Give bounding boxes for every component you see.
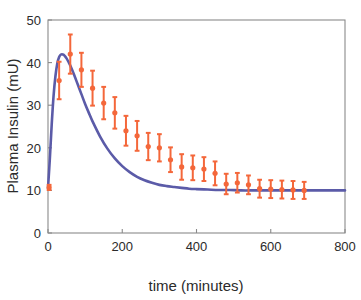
- data-marker: [190, 165, 195, 170]
- data-point-240: [135, 121, 140, 151]
- data-marker: [212, 171, 217, 176]
- x-tick-label-0: 0: [44, 239, 51, 254]
- data-marker: [101, 100, 106, 105]
- data-marker: [57, 78, 62, 83]
- data-point-660: [290, 181, 295, 199]
- data-point-360: [179, 154, 184, 180]
- data-marker: [257, 186, 262, 191]
- data-marker: [168, 157, 173, 162]
- data-point-390: [190, 155, 195, 180]
- data-marker: [224, 181, 229, 186]
- data-marker: [302, 188, 307, 193]
- x-tick-label-800: 800: [334, 239, 356, 254]
- data-point-210: [123, 116, 128, 146]
- y-tick-label-20: 20: [27, 141, 41, 156]
- data-point-600: [268, 180, 273, 198]
- data-marker: [146, 144, 151, 149]
- data-point-300: [157, 134, 162, 161]
- data-marker: [68, 51, 73, 56]
- data-marker: [47, 185, 52, 190]
- insulin-time-chart: 0200400600800 01020304050 time (minutes)…: [0, 0, 361, 300]
- data-marker: [268, 187, 273, 192]
- data-point-180: [112, 97, 117, 129]
- data-point-120: [90, 71, 95, 106]
- data-marker: [123, 128, 128, 133]
- data-point-270: [146, 133, 151, 160]
- data-marker: [201, 167, 206, 172]
- x-axis-tick-labels: 0200400600800: [44, 239, 355, 254]
- y-tick-label-0: 0: [34, 226, 41, 241]
- data-point-90: [79, 53, 84, 87]
- y-tick-label-10: 10: [27, 183, 41, 198]
- data-marker: [79, 67, 84, 72]
- x-tick-label-200: 200: [111, 239, 133, 254]
- x-tick-label-600: 600: [260, 239, 282, 254]
- y-axis-label: Plasma Insulin (mU): [4, 58, 21, 193]
- y-axis-tick-labels: 01020304050: [27, 13, 41, 241]
- data-marker: [235, 180, 240, 185]
- y-tick-label-50: 50: [27, 13, 41, 28]
- data-point-330: [168, 147, 173, 172]
- data-point-570: [257, 180, 262, 198]
- data-marker: [290, 187, 295, 192]
- data-marker: [112, 110, 117, 115]
- data-point-450: [212, 161, 217, 185]
- data-point-3: [47, 185, 52, 190]
- data-point-690: [302, 182, 307, 199]
- data-point-630: [279, 181, 284, 199]
- data-marker: [90, 86, 95, 91]
- data-point-420: [201, 157, 206, 181]
- y-tick-label-40: 40: [27, 56, 41, 71]
- data-marker: [279, 187, 284, 192]
- x-axis-ticks: [48, 229, 345, 233]
- y-tick-label-30: 30: [27, 98, 41, 113]
- data-marker: [135, 133, 140, 138]
- data-marker: [246, 182, 251, 187]
- data-point-150: [101, 87, 106, 119]
- data-marker: [179, 164, 184, 169]
- experimental-data-errorbars: [47, 34, 307, 198]
- x-axis-label: time (minutes): [148, 277, 243, 294]
- figure-container: 0200400600800 01020304050 time (minutes)…: [0, 0, 361, 300]
- plot-frame: [48, 20, 345, 233]
- x-tick-label-400: 400: [186, 239, 208, 254]
- data-marker: [157, 145, 162, 150]
